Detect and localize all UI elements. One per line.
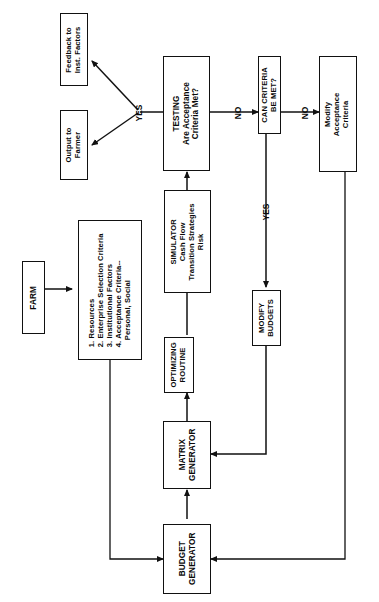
feedback-line2: Inst. Factors	[73, 26, 82, 72]
node-matrix-generator[interactable]: MATRIX GENERATOR	[163, 421, 211, 489]
label-yes-criteria: YES	[261, 204, 271, 221]
label-yes-testing: YES	[134, 105, 144, 122]
testing-line3: Criteria Met?	[191, 88, 200, 139]
budget-line1: BUDGET	[177, 541, 186, 576]
node-optimizing-routine[interactable]: OPTIMIZING ROUTINE	[164, 337, 194, 393]
label-no-criteria: NO	[300, 107, 310, 120]
node-simulator-label: SIMULATOR Cash Flow Transition Strategie…	[170, 203, 206, 280]
edge-modify-acceptance-to-budget	[211, 172, 345, 559]
matrix-line2: GENERATOR	[187, 429, 196, 481]
node-criteria-list-label: 1. Resources 2. Enterprise Selection Cri…	[88, 233, 133, 347]
node-budget-label: BUDGET GENERATOR	[177, 533, 196, 585]
node-can-criteria-label: CAN CRITERIA BE MET?	[261, 67, 279, 123]
node-matrix-label: MATRIX GENERATOR	[177, 429, 196, 481]
node-can-criteria-be-met[interactable]: CAN CRITERIA BE MET?	[258, 56, 281, 134]
modify-budgets-line1: MODIFY	[257, 303, 266, 333]
node-testing[interactable]: TESTING Are Acceptance Criteria Met?	[163, 56, 210, 171]
modify-budgets-line2: BUDGETS	[266, 299, 275, 337]
testing-line2: Are Acceptance	[182, 82, 191, 145]
edge-yes-to-feedback	[92, 61, 138, 110]
modify-acceptance-line2: Acceptance	[333, 92, 342, 136]
budget-line2: GENERATOR	[187, 533, 196, 585]
modify-acceptance-line3: Criteria	[341, 100, 350, 127]
matrix-line1: MATRIX	[177, 439, 186, 470]
criteria-item-4: 4. Acceptance Criteria--	[113, 260, 122, 347]
node-farm-label: FARM	[29, 286, 39, 310]
edge-criteria-list-to-budget	[110, 360, 163, 559]
criteria-item-3: 3. Institutional Factors	[105, 263, 114, 346]
can-criteria-line1: CAN CRITERIA	[260, 67, 269, 123]
node-budget-generator[interactable]: BUDGET GENERATOR	[163, 524, 211, 594]
criteria-item-1: 1. Resources	[87, 298, 96, 346]
optimizing-line2: ROUTINE	[178, 348, 187, 383]
node-criteria-list[interactable]: 1. Resources 2. Enterprise Selection Cri…	[78, 220, 142, 360]
node-modify-acceptance-label: Modify Acceptance Criteria	[325, 92, 352, 136]
simulator-line2: Cash Flow	[178, 222, 187, 261]
edge-modify-budgets-to-matrix	[211, 328, 266, 454]
can-criteria-line2: BE MET?	[269, 78, 278, 112]
criteria-item-2: 2. Enterprise Selection Criteria	[96, 233, 105, 347]
simulator-line3: Transition Strategies	[187, 203, 196, 280]
label-no-testing: NO	[233, 107, 243, 120]
node-farm[interactable]: FARM	[22, 261, 45, 334]
simulator-line4: Risk	[195, 233, 204, 249]
criteria-item-5: Personal, Social	[123, 280, 132, 347]
flowchart-canvas: Feedback to Inst. Factors Output to Farm…	[0, 0, 379, 602]
node-modify-budgets[interactable]: MODIFY BUDGETS	[252, 290, 281, 346]
output-line2: Farmer	[73, 132, 82, 158]
node-modify-acceptance-criteria[interactable]: Modify Acceptance Criteria	[319, 56, 357, 172]
node-simulator[interactable]: SIMULATOR Cash Flow Transition Strategie…	[164, 190, 211, 293]
node-feedback-label: Feedback to Inst. Factors	[65, 26, 83, 72]
edge-yes-to-output	[92, 113, 138, 145]
node-testing-label: TESTING Are Acceptance Criteria Met?	[172, 82, 201, 145]
feedback-line1: Feedback to	[64, 27, 73, 72]
node-optimizing-label: OPTIMIZING ROUTINE	[170, 342, 188, 387]
node-output-label: Output to Farmer	[65, 127, 83, 162]
modify-acceptance-line1: Modify	[324, 101, 333, 126]
node-output-to-farmer[interactable]: Output to Farmer	[60, 110, 88, 180]
simulator-line1: SIMULATOR	[169, 219, 178, 264]
testing-line1: TESTING	[172, 95, 181, 131]
node-feedback-to-inst-factors[interactable]: Feedback to Inst. Factors	[60, 13, 88, 86]
node-modify-budgets-label: MODIFY BUDGETS	[258, 299, 276, 337]
farm-line1: FARM	[29, 286, 38, 310]
